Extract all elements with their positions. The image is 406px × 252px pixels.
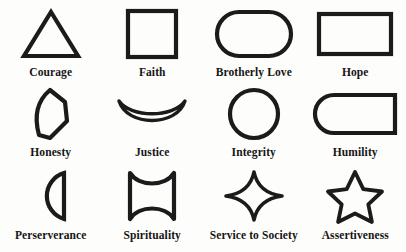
- virtue-cell-hope[interactable]: Hope: [305, 0, 406, 80]
- virtue-cell-courage[interactable]: Courage: [0, 0, 102, 80]
- virtue-cell-spirituality[interactable]: Spirituality: [102, 160, 204, 252]
- virtue-label-courage: Courage: [29, 66, 72, 78]
- virtue-cell-assertiveness[interactable]: Assertiveness: [305, 160, 406, 252]
- virtue-cell-service-to-society[interactable]: Service to Society: [203, 160, 305, 252]
- triangle-shape-icon: [20, 6, 82, 62]
- half-circle-shape-icon: [33, 169, 69, 223]
- virtue-label-faith: Faith: [139, 66, 166, 78]
- five-point-star-shape-icon: [325, 169, 385, 223]
- virtue-label-service-to-society: Service to Society: [210, 229, 298, 241]
- square-shape-icon: [125, 6, 179, 62]
- concave-square-shape-icon: [127, 169, 177, 223]
- virtue-cell-humility[interactable]: Humility: [305, 80, 406, 160]
- virtue-cell-honesty[interactable]: Honesty: [0, 80, 102, 160]
- crescent-bowl-shape-icon: [115, 86, 189, 142]
- virtue-label-hope: Hope: [342, 66, 369, 78]
- virtue-label-humility: Humility: [333, 146, 378, 158]
- virtue-label-justice: Justice: [135, 146, 170, 158]
- virtue-label-honesty: Honesty: [30, 146, 71, 158]
- virtue-label-perserverance: Perserverance: [15, 229, 87, 241]
- rectangle-shape-icon: [316, 6, 394, 62]
- virtue-cell-faith[interactable]: Faith: [102, 0, 204, 80]
- virtue-label-brotherly-love: Brotherly Love: [216, 66, 292, 78]
- virtue-label-spirituality: Spirituality: [124, 229, 181, 241]
- virtue-cell-perserverance[interactable]: Perserverance: [0, 160, 102, 252]
- four-point-star-shape-icon: [223, 169, 285, 223]
- circle-shape-icon: [227, 86, 281, 142]
- shape-chart-sheet: Courage Faith Brotherly Love: [0, 0, 406, 252]
- stadium-pill-shape-icon: [214, 6, 294, 62]
- virtue-label-integrity: Integrity: [232, 146, 276, 158]
- virtue-cell-brotherly-love[interactable]: Brotherly Love: [203, 0, 305, 80]
- virtue-cell-integrity[interactable]: Integrity: [203, 80, 305, 160]
- half-rounded-rectangle-shape-icon: [312, 86, 398, 142]
- leaf-point-shape-icon: [30, 86, 72, 142]
- virtue-label-assertiveness: Assertiveness: [322, 229, 389, 241]
- virtue-shape-grid: Courage Faith Brotherly Love: [0, 0, 406, 252]
- virtue-cell-justice[interactable]: Justice: [102, 80, 204, 160]
